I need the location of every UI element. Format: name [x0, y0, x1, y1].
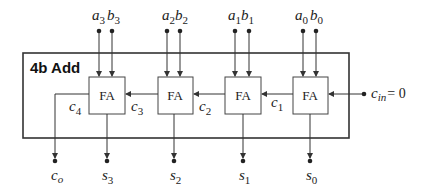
- carry-label-c4: c4: [69, 98, 82, 117]
- four-bit-adder-diagram: 4b Add FA FA FA FA a3b3 a: [0, 0, 424, 193]
- fa-label: FA: [235, 88, 251, 103]
- carry-label-c2: c2: [199, 98, 211, 117]
- fa-label: FA: [167, 88, 183, 103]
- output-label-s1: s1: [239, 167, 250, 186]
- carry-label-c1: c1: [271, 94, 283, 113]
- carry-in-terminal: [362, 92, 367, 97]
- svg-text:a3b3: a3b3: [92, 7, 121, 26]
- input-label-a1b1: a1b1: [228, 7, 254, 26]
- fa-label: FA: [302, 88, 318, 103]
- input-label-a2b2: a2b2: [162, 7, 188, 26]
- output-label-s2: s2: [170, 167, 181, 186]
- module-title: 4b Add: [30, 59, 80, 76]
- output-label-co: co: [51, 167, 64, 185]
- svg-text:a0b0: a0b0: [295, 7, 324, 26]
- fa-block-3: FA: [89, 77, 125, 114]
- svg-text:a1b1: a1b1: [228, 7, 254, 26]
- carry-in-label: cin= 0: [371, 85, 406, 103]
- output-label-s3: s3: [102, 167, 114, 186]
- fa-block-1: FA: [225, 77, 261, 114]
- fa-label: FA: [99, 88, 115, 103]
- input-label-a0b0: a0b0: [295, 7, 324, 26]
- output-label-s0: s0: [306, 167, 318, 186]
- fa-block-0: FA: [293, 77, 328, 114]
- svg-text:a2b2: a2b2: [162, 7, 188, 26]
- fa-block-2: FA: [158, 77, 193, 114]
- input-label-a3b3: a3b3: [92, 7, 121, 26]
- carry-label-c3: c3: [131, 98, 144, 117]
